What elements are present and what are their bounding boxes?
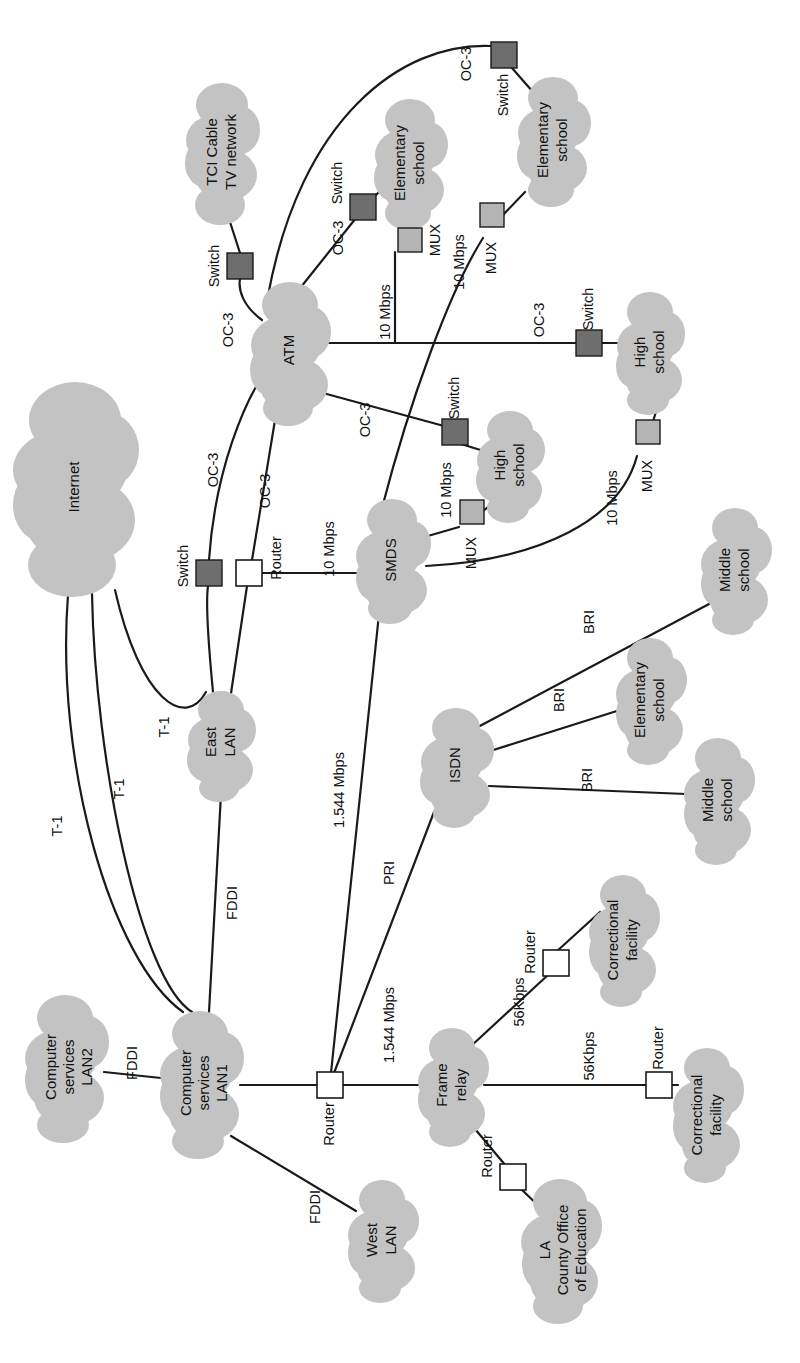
edge-label-10mbps-atm-mux1: 10 Mbps	[377, 284, 393, 340]
link-smds-mux-elem2[interactable]	[382, 238, 483, 508]
edge-label-10mbps-smds-mux2: 10 Mbps	[451, 234, 467, 290]
cloud-label-line2: facility	[707, 1094, 724, 1136]
cloud-elementary-school-1[interactable]: Elementary school	[374, 99, 448, 230]
cloud-label-line1: LA	[536, 1241, 553, 1259]
cloud-elementary-school-2[interactable]: Elementary school	[517, 77, 591, 207]
cloud-frame-relay[interactable]: Frame relay	[418, 1028, 489, 1147]
edge-label-oc3-atm-elem2: OC-3	[458, 47, 474, 82]
cloud-label-line1: East	[202, 726, 219, 757]
cloud-label: ATM	[280, 335, 297, 366]
cloud-label: Internet	[65, 461, 82, 513]
edge-label-1544-rtcore-frame: 1.544 Mbps	[381, 987, 397, 1063]
cloud-internet[interactable]: Internet	[13, 382, 139, 597]
cloud-label: SMDS	[382, 538, 399, 581]
device-switch-east-lan[interactable]: Switch	[175, 545, 222, 588]
cloud-label-line2: school	[510, 443, 527, 486]
network-topology-diagram: Internet TCI Cable TV network	[0, 0, 800, 1363]
edge-label-oc3-atm-elem1: OC-3	[330, 221, 346, 256]
edge-label-10mbps-smds-muxh1: 10 Mbps	[438, 462, 454, 518]
link-internet-t1-a[interactable]	[66, 595, 183, 1012]
cloud-label-line2: County Office	[554, 1205, 571, 1296]
cloud-west-lan[interactable]: West LAN	[348, 1180, 419, 1303]
cloud-smds[interactable]: SMDS	[356, 499, 431, 624]
link-mux-elem2-cloud[interactable]	[503, 192, 525, 215]
cloud-correctional-facility-2[interactable]: Correctional facility	[673, 1048, 744, 1183]
edge-label-t1-b: T-1	[111, 779, 127, 800]
cloud-high-school-2[interactable]: High school	[616, 292, 685, 415]
cloud-label-line2: LAN	[221, 727, 238, 756]
link-eastlan-router-east[interactable]	[230, 586, 247, 700]
link-eastlan-switch-atm[interactable]	[207, 586, 213, 692]
link-router-core-smds[interactable]	[331, 614, 379, 1073]
device-mux-high-2[interactable]: MUX	[636, 420, 660, 492]
link-switch-tci-cloud[interactable]	[230, 222, 240, 253]
cloud-label-line3: of Education	[572, 1208, 589, 1291]
link-eastlan-cslan1[interactable]	[209, 794, 221, 1012]
device-label: MUX	[639, 460, 655, 493]
cloud-atm[interactable]: ATM	[250, 282, 331, 426]
edge-label-oc3-atm-high2: OC-3	[531, 303, 547, 338]
link-framerelay-router-cor1[interactable]	[470, 974, 549, 1047]
edge-label-fddi-lan1-west: FDDI	[307, 1190, 323, 1224]
device-switch-high-2[interactable]: Switch	[576, 288, 602, 356]
edge-label-10mbps-smds-muxh2: 10 Mbps	[604, 470, 620, 526]
device-label: Router	[650, 1026, 666, 1070]
edge-label-oc3-tci-atm: OC-3	[220, 313, 236, 348]
device-router-correctional-2[interactable]: Router	[646, 1026, 672, 1098]
cloud-tci-cable-tv[interactable]: TCI Cable TV network	[185, 83, 260, 225]
edge-label-10mbps-rteast-smds: 10 Mbps	[321, 521, 337, 577]
device-router-core[interactable]: Router	[317, 1072, 343, 1146]
link-atm-switch-tci[interactable]	[240, 279, 262, 320]
edge-label-1544-rtcore-smds: 1.544 Mbps	[331, 752, 347, 828]
link-switch-elem2-cloud[interactable]	[512, 68, 533, 92]
link-atm-switch-elem1[interactable]	[297, 218, 356, 292]
link-internet-t1-b[interactable]	[92, 594, 192, 1012]
cloud-elementary-school-3[interactable]: Elementary school	[616, 638, 687, 765]
cloud-label-line3: LAN1	[213, 1064, 230, 1102]
cloud-correctional-facility-1[interactable]: Correctional facility	[589, 875, 660, 1007]
cloud-label-line1: Computer	[177, 1050, 194, 1116]
cloud-label-line1: High	[491, 450, 508, 481]
edge-label-56kbps-cor2: 56Kbps	[581, 1031, 597, 1080]
cloud-label-line2: services	[60, 1039, 77, 1094]
device-mux-high-1[interactable]: MUX	[460, 500, 484, 569]
edge-label-t1-c: T-1	[156, 717, 172, 738]
link-cslan1-westlan[interactable]	[231, 1136, 356, 1211]
cloud-computer-services-lan2[interactable]: Computer services LAN2	[25, 995, 109, 1143]
edge-label-bri-isdn-middle1: BRI	[581, 610, 597, 634]
link-internet-t1-c[interactable]	[115, 590, 206, 708]
cloud-label-line1: Correctional	[604, 900, 621, 981]
device-router-correctional-1[interactable]: Router	[522, 930, 569, 976]
link-isdn-elem3[interactable]	[487, 710, 620, 752]
edge-label-fddi-cslan1-east: FDDI	[224, 886, 240, 920]
device-label: Router	[522, 930, 538, 974]
edge-label-oc3-atm-rteast: OC-3	[257, 474, 273, 509]
device-router-east-lan[interactable]: Router	[236, 536, 284, 586]
cloud-la-county-office-of-education[interactable]: LA County Office of Education	[521, 1179, 602, 1324]
cloud-label-line2: school	[735, 548, 752, 591]
cloud-high-school-1[interactable]: High school	[476, 411, 545, 523]
cloud-label-line2: school	[650, 330, 667, 373]
cloud-label-line1: Middle	[716, 548, 733, 592]
link-atm-switch-high1[interactable]	[312, 390, 444, 426]
cloud-label-line1: Elementary	[391, 125, 408, 201]
device-switch-high-1[interactable]: Switch	[442, 377, 468, 445]
device-switch-tci[interactable]: Switch	[206, 245, 253, 288]
device-mux-elementary-1[interactable]: MUX	[398, 224, 443, 257]
device-label: Switch	[175, 545, 191, 588]
device-switch-elementary-1[interactable]: Switch	[329, 162, 376, 220]
device-switch-elementary-2[interactable]: Switch	[491, 42, 517, 116]
cloud-middle-school-2[interactable]: Middle school	[684, 738, 755, 865]
cloud-label-line2: school	[553, 118, 570, 161]
cloud-east-lan[interactable]: East LAN	[187, 691, 256, 802]
cloud-label-line1: TCI Cable	[203, 118, 220, 186]
cloud-label-line2: TV network	[222, 114, 239, 190]
cloud-label-line2: relay	[452, 1068, 469, 1101]
cloud-label-line2: school	[650, 678, 667, 721]
edge-label-bri-isdn-elem3: BRI	[551, 688, 567, 712]
edge-label-oc3-atm-sweast: OC-3	[205, 453, 221, 488]
cloud-middle-school-1[interactable]: Middle school	[701, 508, 772, 635]
edge-label-oc3-atm-high1: OC-3	[357, 403, 373, 438]
cloud-isdn[interactable]: ISDN	[420, 708, 494, 828]
device-label: Switch	[446, 377, 462, 420]
